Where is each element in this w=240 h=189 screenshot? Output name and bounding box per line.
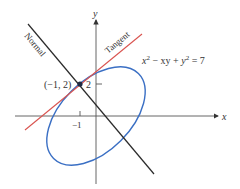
equation-label: x2 − xy + y2 = 7 — [141, 54, 205, 66]
ellipse-tangent-normal-diagram: y x 2 −1 (−1, 2) Normal Tangent x2 − xy … — [0, 0, 240, 189]
y-tick-label: 2 — [86, 79, 91, 90]
y-axis-label: y — [92, 8, 98, 19]
x-tick-label: −1 — [72, 120, 82, 130]
tangent-label: Tangent — [103, 29, 132, 56]
eq-mid: − xy + — [150, 55, 181, 66]
point-marker — [77, 81, 82, 86]
point-label: (−1, 2) — [44, 79, 71, 91]
normal-line — [28, 24, 154, 174]
x-axis-label: x — [221, 111, 227, 122]
normal-label: Normal — [22, 31, 48, 59]
eq-rhs: = 7 — [189, 55, 205, 66]
